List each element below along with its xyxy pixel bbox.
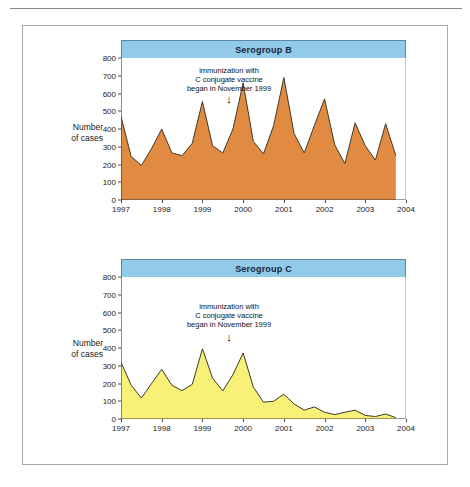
chart-title-banner-b: Serogroup B: [121, 40, 406, 59]
y-axis-tick-mark: [118, 365, 121, 366]
y-axis-tick-label: 800: [103, 273, 116, 282]
y-axis-tick-label: 400: [103, 125, 116, 134]
y-axis-tick-label: 700: [103, 290, 116, 299]
y-axis-tick-mark: [118, 330, 121, 331]
y-axis-tick-mark: [118, 383, 121, 384]
y-axis-tick-mark: [118, 294, 121, 295]
x-axis-tick-mark: [365, 419, 366, 422]
x-axis-tick-mark: [162, 200, 163, 203]
x-axis-tick-label: 1997: [112, 205, 130, 214]
y-axis-tick-label: 300: [103, 361, 116, 370]
y-axis-tick-label: 0: [112, 415, 116, 424]
x-axis-tick-mark: [243, 200, 244, 203]
x-axis-tick-mark: [406, 419, 407, 422]
x-axis-tick-label: 2004: [397, 205, 415, 214]
y-axis-tick-label: 500: [103, 107, 116, 116]
y-axis-title-line2: of cases: [29, 133, 103, 144]
figure-page: Serogroup B Number of cases immunization…: [0, 0, 470, 487]
top-divider-rule: [10, 8, 462, 9]
y-axis-tick-label: 200: [103, 379, 116, 388]
area-chart-serogroup-c: [121, 277, 406, 419]
annotation-line: began in November 1999: [187, 84, 271, 93]
annotation-line: immunization with: [187, 302, 271, 311]
x-axis-tick-mark: [202, 200, 203, 203]
figure-frame: Serogroup B Number of cases immunization…: [22, 25, 448, 465]
x-axis-tick-mark: [284, 419, 285, 422]
plot-area-serogroup-b: immunization withC conjugate vaccinebega…: [121, 58, 406, 200]
x-axis-tick-label: 1999: [194, 205, 212, 214]
x-axis-tick-label: 1998: [153, 205, 171, 214]
y-axis-tick-label: 400: [103, 344, 116, 353]
y-axis-tick-label: 800: [103, 54, 116, 63]
annotation-line: began in November 1999: [187, 320, 271, 329]
y-axis-tick-label: 600: [103, 308, 116, 317]
y-axis-tick-mark: [118, 75, 121, 76]
y-axis-tick-label: 700: [103, 71, 116, 80]
y-axis-tick-mark: [118, 146, 121, 147]
x-axis-tick-mark: [325, 200, 326, 203]
x-axis-tick-mark: [325, 419, 326, 422]
y-axis-tick-mark: [118, 129, 121, 130]
annotation-line: C conjugate vaccine: [187, 311, 271, 320]
x-axis-tick-mark: [243, 419, 244, 422]
annotation-arrow-icon-b: ↓: [226, 94, 232, 105]
x-axis-tick-label: 2001: [275, 205, 293, 214]
x-axis-tick-label: 2003: [356, 424, 374, 433]
area-fill: [121, 78, 396, 200]
chart-title-banner-c: Serogroup C: [121, 259, 406, 278]
y-axis-tick-mark: [118, 111, 121, 112]
y-axis-tick-mark: [118, 312, 121, 313]
annotation-line: immunization with: [187, 66, 271, 75]
y-axis-title-c: Number of cases: [29, 338, 103, 360]
y-axis-tick-label: 100: [103, 178, 116, 187]
area-fill: [121, 349, 396, 419]
y-axis-tick-label: 500: [103, 326, 116, 335]
y-axis-title-line2: of cases: [29, 349, 103, 360]
x-axis-tick-label: 2002: [316, 424, 334, 433]
x-axis-tick-label: 2000: [234, 205, 252, 214]
x-axis-tick-mark: [406, 200, 407, 203]
x-axis-tick-mark: [284, 200, 285, 203]
chart-panel-serogroup-c: Serogroup C Number of cases immunization…: [23, 254, 449, 466]
chart-panel-serogroup-b: Serogroup B Number of cases immunization…: [23, 35, 449, 250]
x-axis-tick-label: 1997: [112, 424, 130, 433]
x-axis-tick-mark: [162, 419, 163, 422]
x-axis-tick-mark: [121, 200, 122, 203]
y-axis-title-line1: Number: [29, 338, 103, 349]
y-axis-tick-mark: [118, 401, 121, 402]
x-axis-tick-label: 2003: [356, 205, 374, 214]
annotation-arrow-icon-c: ↓: [226, 332, 232, 343]
y-axis-tick-mark: [118, 93, 121, 94]
annotation-text-c: immunization withC conjugate vaccinebega…: [187, 302, 271, 329]
y-axis-tick-label: 100: [103, 397, 116, 406]
x-axis-tick-label: 2002: [316, 205, 334, 214]
y-axis-tick-mark: [118, 348, 121, 349]
annotation-text-b: immunization withC conjugate vaccinebega…: [187, 66, 271, 93]
y-axis-title-line1: Number: [29, 122, 103, 133]
y-axis-tick-mark: [118, 58, 121, 59]
y-axis-tick-label: 300: [103, 142, 116, 151]
x-axis-tick-label: 1999: [194, 424, 212, 433]
x-axis-tick-label: 1998: [153, 424, 171, 433]
y-axis-tick-label: 200: [103, 160, 116, 169]
x-axis-tick-mark: [202, 419, 203, 422]
x-axis-tick-label: 2004: [397, 424, 415, 433]
x-axis-tick-label: 2001: [275, 424, 293, 433]
x-axis-tick-label: 2000: [234, 424, 252, 433]
y-axis-tick-mark: [118, 182, 121, 183]
y-axis-tick-label: 600: [103, 89, 116, 98]
y-axis-tick-mark: [118, 277, 121, 278]
chart-title-b: Serogroup B: [235, 45, 292, 55]
chart-title-c: Serogroup C: [235, 264, 292, 274]
y-axis-tick-label: 0: [112, 196, 116, 205]
x-axis-tick-mark: [121, 419, 122, 422]
plot-area-serogroup-c: immunization withC conjugate vaccinebega…: [121, 277, 406, 419]
y-axis-title-b: Number of cases: [29, 122, 103, 144]
x-axis-tick-mark: [365, 200, 366, 203]
annotation-line: C conjugate vaccine: [187, 75, 271, 84]
y-axis-tick-mark: [118, 164, 121, 165]
